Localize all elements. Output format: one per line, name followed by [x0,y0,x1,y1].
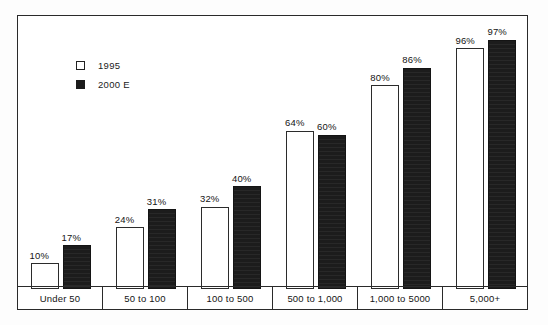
bar-value-label-1995-3: 64% [285,118,305,128]
bar-1995-1[interactable] [116,227,144,289]
bar-2000-e-5[interactable] [488,40,516,289]
category-label-0: Under 50 [18,287,103,309]
bar-1995-4[interactable] [371,85,399,289]
bar-value-label-1995-4: 80% [370,73,390,83]
category-axis: Under 5050 to 100100 to 500500 to 1,0001… [18,286,527,309]
bar-group-1: 24%31% [103,16,188,289]
bar-value-label-1995-5: 96% [455,36,475,46]
bar-2000-e-1[interactable] [148,209,176,289]
bar-value-label-2000-e-3: 60% [317,122,337,132]
bar-group-0: 10%17% [18,16,103,289]
bar-group-4: 80%86% [359,16,444,289]
bar-value-label-2000-e-4: 86% [402,55,422,65]
bar-1995-5[interactable] [456,48,484,289]
plot-area: 1995 2000 E 10%17%24%31%32%40%64%60%80%8… [18,16,527,289]
bar-value-label-1995-2: 32% [200,194,220,204]
bar-group-3: 64%60% [274,16,359,289]
bar-value-label-2000-e-2: 40% [232,174,252,184]
bar-value-label-1995-1: 24% [115,215,135,225]
bar-1995-2[interactable] [201,207,229,289]
bar-group-5: 96%97% [444,16,529,289]
bar-2000-e-4[interactable] [403,68,431,289]
category-label-1: 50 to 100 [103,287,188,309]
category-label-2: 100 to 500 [188,287,273,309]
page-background: 1995 2000 E 10%17%24%31%32%40%64%60%80%8… [0,0,548,325]
category-label-3: 500 to 1,000 [273,287,358,309]
category-label-5: 5,000+ [443,287,527,309]
bar-2000-e-0[interactable] [63,245,91,289]
bar-value-label-2000-e-5: 97% [487,27,507,37]
bar-value-label-2000-e-0: 17% [62,233,82,243]
bar-1995-3[interactable] [286,131,314,289]
bar-value-label-2000-e-1: 31% [147,197,167,207]
bar-group-2: 32%40% [188,16,273,289]
bar-2000-e-2[interactable] [233,186,261,289]
bar-value-label-1995-0: 10% [30,251,50,261]
chart-frame: 1995 2000 E 10%17%24%31%32%40%64%60%80%8… [17,15,528,310]
bar-2000-e-3[interactable] [318,135,346,289]
category-label-4: 1,000 to 5000 [358,287,443,309]
